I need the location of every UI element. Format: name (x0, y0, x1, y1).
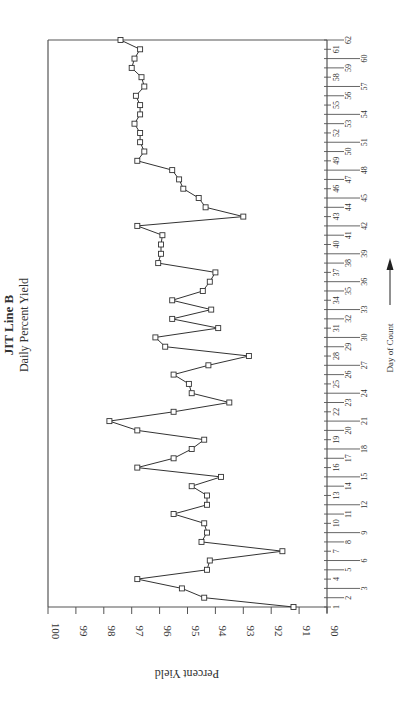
data-point-marker (200, 289, 205, 294)
day-tick-label: 51 (360, 138, 369, 146)
day-tick-label: 59 (344, 64, 353, 72)
day-tick-label: 24 (360, 389, 369, 397)
yield-series (107, 38, 296, 610)
day-tick-label: 34 (332, 296, 341, 304)
percent-yield-axis: 10099989796959493929190 (48, 607, 341, 640)
data-point-marker (205, 493, 210, 498)
data-point-marker (135, 223, 140, 228)
data-point-marker (213, 270, 218, 275)
data-point-marker (159, 242, 164, 247)
day-tick-label: 1 (332, 605, 341, 609)
data-point-marker (202, 437, 207, 442)
day-tick-label: 44 (344, 203, 353, 211)
day-tick-label: 61 (332, 45, 341, 53)
day-tick-label: 9 (360, 531, 369, 535)
data-point-marker (246, 354, 251, 359)
data-point-marker (171, 372, 176, 377)
chart-subtitle: Daily Percent Yield (17, 278, 31, 372)
day-axis-title: Day of Count (385, 258, 395, 373)
day-tick-label: 18 (360, 445, 369, 453)
yield-tick-label: 100 (50, 623, 62, 640)
day-tick-label: 58 (332, 73, 341, 81)
day-tick-label: 56 (344, 92, 353, 100)
data-point-marker (227, 400, 232, 405)
day-tick-label: 32 (344, 315, 353, 323)
day-tick-label: 2 (344, 596, 353, 600)
yield-tick-label: 97 (134, 626, 146, 638)
day-tick-label: 38 (344, 259, 353, 267)
yield-tick-label: 92 (273, 626, 285, 637)
data-point-marker (186, 381, 191, 386)
yield-tick-label: 96 (162, 626, 174, 638)
data-point-marker (138, 140, 143, 145)
day-axis: 1234567891011121314151617181920212223242… (324, 36, 369, 613)
day-tick-label: 60 (360, 55, 369, 63)
data-point-marker (206, 363, 211, 368)
day-tick-label: 49 (332, 157, 341, 165)
day-tick-label: 6 (360, 559, 369, 563)
data-point-marker (160, 233, 165, 238)
yield-tick-label: 98 (106, 626, 118, 638)
day-tick-label: 48 (360, 166, 369, 174)
day-tick-label: 19 (332, 436, 341, 444)
day-tick-label: 12 (360, 501, 369, 509)
day-tick-label: 36 (360, 278, 369, 286)
day-tick-label: 47 (344, 175, 353, 183)
plot-frame (48, 40, 327, 607)
data-point-marker (118, 38, 123, 43)
day-tick-label: 39 (360, 250, 369, 258)
day-tick-label: 26 (344, 371, 353, 379)
day-tick-label: 37 (332, 268, 341, 276)
data-point-marker (171, 512, 176, 517)
data-point-marker (159, 251, 164, 256)
day-tick-label: 11 (344, 510, 353, 518)
day-tick-label: 35 (344, 287, 353, 295)
day-tick-label: 15 (360, 473, 369, 481)
data-point-marker (107, 419, 112, 424)
data-point-marker (142, 84, 147, 89)
data-point-marker (129, 65, 134, 70)
data-point-marker (138, 131, 143, 136)
data-point-marker (189, 447, 194, 452)
yield-tick-label: 95 (190, 626, 202, 638)
day-tick-label: 4 (332, 577, 341, 581)
day-tick-label: 31 (332, 324, 341, 332)
day-tick-label: 3 (360, 586, 369, 590)
day-tick-label: 13 (332, 491, 341, 499)
data-point-marker (139, 75, 144, 80)
data-point-marker (170, 316, 175, 321)
day-tick-label: 33 (360, 306, 369, 314)
day-tick-label: 20 (344, 426, 353, 434)
data-point-marker (199, 539, 204, 544)
data-point-marker (133, 93, 138, 98)
data-point-marker (132, 121, 137, 126)
data-point-marker (216, 326, 221, 331)
yield-tick-label: 91 (301, 626, 313, 637)
day-tick-label: 27 (360, 361, 369, 369)
data-point-marker (163, 344, 168, 349)
day-tick-label: 29 (344, 343, 353, 351)
data-point-marker (205, 567, 210, 572)
day-tick-label: 62 (344, 36, 353, 44)
yield-tick-label: 94 (217, 626, 229, 638)
data-point-marker (142, 149, 147, 154)
day-tick-label: 50 (344, 148, 353, 156)
day-tick-label: 40 (332, 240, 341, 248)
data-point-marker (219, 474, 224, 479)
data-point-marker (138, 103, 143, 108)
data-point-marker (202, 521, 207, 526)
line-chart: JIT Line B Daily Percent Yield 100999897… (0, 0, 402, 701)
day-of-count-label: Day of Count (385, 323, 395, 372)
chart-title-group: JIT Line B Daily Percent Yield (1, 278, 31, 372)
data-point-marker (135, 158, 140, 163)
day-tick-label: 14 (344, 482, 353, 490)
data-point-marker (181, 186, 186, 191)
chart-container: JIT Line B Daily Percent Yield 100999897… (0, 0, 402, 701)
yield-tick-label: 93 (245, 626, 257, 638)
data-point-marker (205, 530, 210, 535)
day-tick-label: 57 (360, 82, 369, 90)
data-point-marker (189, 484, 194, 489)
day-tick-label: 28 (332, 352, 341, 360)
up-arrow-icon (387, 258, 394, 270)
day-tick-label: 22 (332, 408, 341, 416)
